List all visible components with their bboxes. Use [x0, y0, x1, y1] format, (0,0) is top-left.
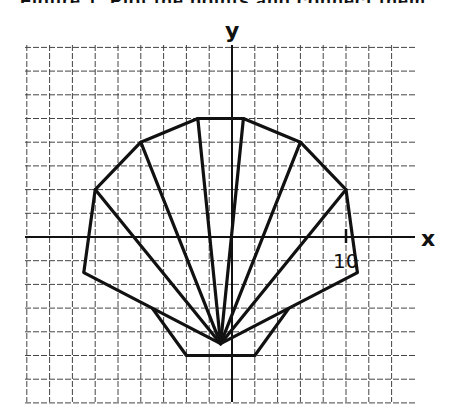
- x-tick-label-10: 10: [333, 249, 358, 273]
- axes: [25, 45, 415, 402]
- y-axis-label: y: [225, 18, 239, 43]
- x-axis-label: x: [421, 226, 435, 251]
- shell-diagram: x y 10: [0, 0, 457, 414]
- coordinate-grid: [25, 45, 415, 403]
